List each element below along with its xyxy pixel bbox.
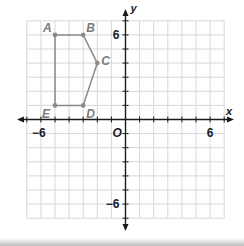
- x-tick-label: −6: [32, 126, 46, 140]
- x-axis-left-arrow-icon: [17, 117, 24, 123]
- polygon-outline: [55, 35, 97, 106]
- labels: ABCDE−666−6Oxy: [32, 2, 233, 211]
- vertex-label-d: D: [86, 107, 95, 121]
- vertex-label-c: C: [101, 54, 110, 68]
- vertex-label-a: A: [42, 21, 52, 35]
- y-tick-label: −6: [106, 197, 120, 211]
- vertex-point-c: [95, 61, 100, 66]
- y-tick-label: 6: [113, 28, 120, 42]
- page-edge-shadow: [0, 238, 244, 246]
- coordinate-plane: ABCDE−666−6Oxy: [0, 0, 244, 246]
- x-axis-label: x: [225, 105, 233, 117]
- vertex-point-d: [81, 103, 86, 108]
- vertex-point-b: [81, 33, 86, 38]
- vertex-label-e: E: [42, 107, 51, 121]
- vertex-point-e: [53, 103, 58, 108]
- vertex-point-a: [53, 33, 58, 38]
- origin-label: O: [113, 126, 123, 140]
- polygon-abcde: [53, 33, 100, 108]
- y-axis-label: y: [130, 2, 138, 14]
- vertex-label-b: B: [86, 21, 95, 35]
- y-axis-up-arrow-icon: [123, 9, 129, 16]
- y-axis-down-arrow-icon: [123, 224, 129, 231]
- x-tick-label: 6: [207, 126, 214, 140]
- x-axis-right-arrow-icon: [227, 117, 234, 123]
